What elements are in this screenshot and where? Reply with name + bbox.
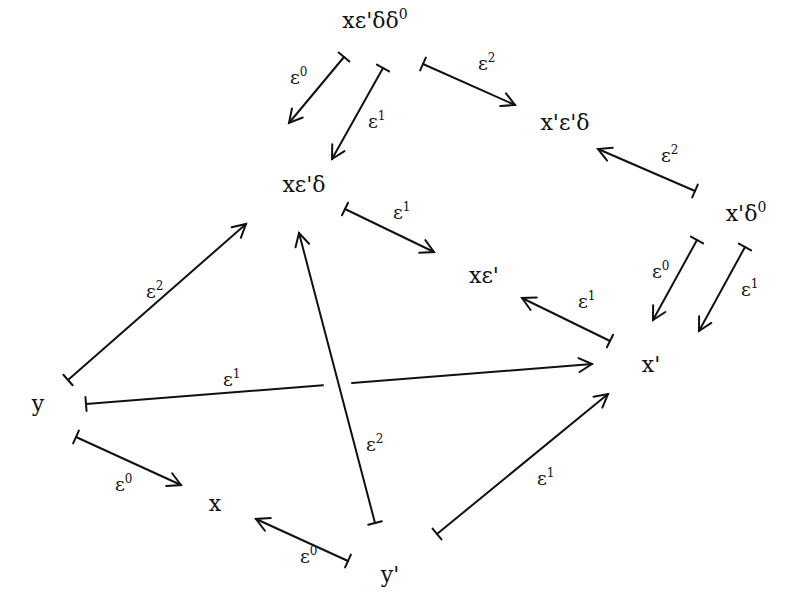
arrows-layer <box>63 53 751 568</box>
node-x1: x' <box>642 352 660 377</box>
nodes-layer: xε'δδ0x'ε'δxε'δx'δ0xε'x'yxy' <box>31 6 767 587</box>
arrow-label: ε1 <box>578 289 595 312</box>
arrow-shaft <box>423 64 515 105</box>
node-xe1d: xε'δ <box>282 172 325 197</box>
arrow-label: ε0 <box>115 472 132 495</box>
node-xe1dd0: xε'δδ0 <box>342 6 407 33</box>
arrow-x1-to-xe1 <box>522 297 613 347</box>
maps-to-tail-icon <box>739 244 751 251</box>
arrow-xe1d-to-xe1 <box>342 203 434 253</box>
node-x1d0: x'δ0 <box>726 199 767 226</box>
arrow-label: ε1 <box>741 277 758 300</box>
arrow-label: ε1 <box>368 109 385 132</box>
commutative-diagram: ε0ε1ε2ε2ε1ε1ε0ε1ε2ε1ε2ε0ε0ε1 xε'δδ0x'ε'δ… <box>0 0 793 607</box>
maps-to-tail-icon <box>377 65 389 72</box>
arrow-x1d0-to-x1e1d <box>598 148 698 198</box>
arrow-shaft <box>522 298 610 341</box>
node-y: y <box>31 391 45 416</box>
node-x: x <box>209 491 222 516</box>
arrow-shaft <box>598 149 695 191</box>
arrow-shaft <box>699 247 745 331</box>
arrow-label: ε2 <box>661 143 678 166</box>
arrow-y1-to-xe1d <box>296 233 382 525</box>
arrow-label: ε0 <box>300 544 317 567</box>
arrow-label: ε2 <box>478 51 495 74</box>
arrow-label: ε1 <box>223 367 240 390</box>
arrow-label: ε1 <box>393 200 410 223</box>
arrow-y1-to-x1 <box>433 394 608 539</box>
arrow-shaft <box>299 233 375 523</box>
arrow-label: ε1 <box>537 466 554 489</box>
arrow-shaft <box>86 385 323 404</box>
maps-to-tail-icon <box>691 237 703 244</box>
node-y1: y' <box>380 562 399 587</box>
arrow-shaft <box>68 224 246 380</box>
arrow-label: ε2 <box>366 432 383 455</box>
arrow-shaft <box>352 364 592 383</box>
arrow-shaft <box>437 394 608 534</box>
arrow-label: ε0 <box>652 259 669 282</box>
arrow-shaft <box>345 209 434 252</box>
node-x1e1d: x'ε'δ <box>540 110 589 135</box>
arrow-label: ε0 <box>290 65 307 88</box>
arrow-xe1dd0-to-x1e1d <box>420 58 515 106</box>
node-xe1: xε' <box>469 263 499 288</box>
arrow-y-to-xe1d <box>63 224 246 385</box>
arrow-labels-layer: ε0ε1ε2ε2ε1ε1ε0ε1ε2ε1ε2ε0ε0ε1 <box>115 51 758 567</box>
maps-to-tail-icon <box>85 397 86 411</box>
